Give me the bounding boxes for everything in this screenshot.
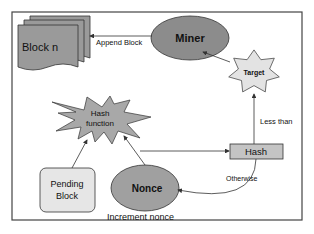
hash-function-line2: function (86, 119, 114, 128)
block-n-node: Block n (18, 16, 90, 70)
hash-node: Hash (230, 144, 283, 159)
nonce-to-hash-function-arrow (124, 136, 145, 165)
hash-function-node: Hash function (52, 96, 151, 144)
less-than-label: Less than (260, 117, 293, 126)
hash-function-line1: Hash (91, 109, 110, 118)
miner-node: Miner (151, 16, 229, 60)
nonce-label: Nonce (132, 183, 163, 194)
otherwise-label: Otherwise (226, 175, 258, 182)
target-label: Target (244, 69, 266, 77)
block-n-label: Block n (22, 41, 58, 53)
pending-to-hash-function-arrow (72, 140, 87, 168)
mining-diagram: Block n Miner Append Block Target Hash L… (0, 0, 314, 234)
nonce-node: Nonce (111, 165, 179, 211)
pending-block-node: Pending Block (40, 168, 95, 212)
append-block-label: Append Block (96, 38, 143, 47)
increment-nonce-label: Increment nonce (107, 212, 174, 222)
miner-label: Miner (175, 32, 205, 44)
target-node: Target (229, 50, 280, 92)
pending-block-line2: Block (56, 191, 79, 201)
hash-label: Hash (245, 146, 267, 157)
pending-block-line1: Pending (50, 179, 83, 189)
